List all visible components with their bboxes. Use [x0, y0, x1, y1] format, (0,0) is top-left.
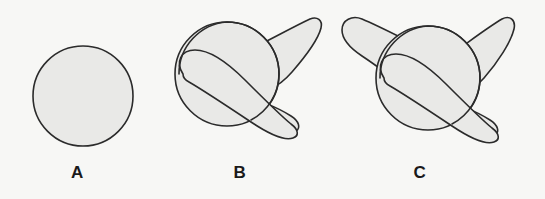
figure-container: A B	[0, 0, 545, 199]
panel-b-drawing	[165, 0, 345, 160]
panel-c-drawing	[330, 0, 545, 160]
panel-a-drawing	[0, 0, 175, 160]
panel-label-a: A	[0, 163, 155, 183]
panel-label-b: B	[165, 163, 315, 183]
panel-label-c: C	[330, 163, 510, 183]
sphere-shape	[33, 46, 133, 146]
